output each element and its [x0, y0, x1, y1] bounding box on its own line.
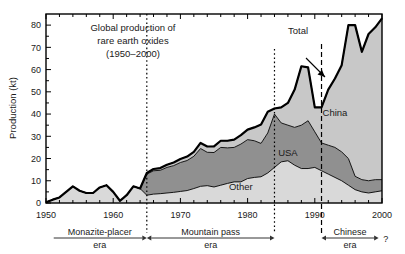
- chart-figure: 01020304050607080 1950196019701980199020…: [0, 0, 405, 254]
- usa-label: USA: [278, 147, 298, 158]
- y-tick-label-0: 0: [36, 198, 41, 208]
- x-tick-label-1960: 1960: [103, 210, 123, 220]
- chart-title: Global production of rare earth oxides (…: [90, 22, 175, 59]
- y-tick-label-70: 70: [31, 43, 41, 53]
- y-axis-label: Production (kt): [7, 77, 18, 139]
- y-axis-ticks: 01020304050607080: [31, 20, 51, 208]
- other-label: Other: [229, 181, 253, 192]
- mountain-pass-era-arrow-left: [147, 235, 152, 240]
- chinese-era-arrow-right: [374, 235, 379, 240]
- rare-earth-production-chart: 01020304050607080 1950196019701980199020…: [0, 0, 405, 254]
- chinese-era-label-bottom: era: [344, 240, 357, 250]
- chart-title-line-1: Global production of: [90, 22, 175, 33]
- y-tick-label-50: 50: [31, 87, 41, 97]
- mountain-pass-era-label-top: Mountain pass: [181, 227, 240, 237]
- china-label: China: [323, 107, 349, 118]
- x-tick-label-1980: 1980: [238, 210, 258, 220]
- chinese-era-suffix: ?: [383, 234, 388, 244]
- chinese-era-label-top: Chinese: [334, 227, 367, 237]
- monazite-placer-era-arrow-right: [142, 235, 147, 240]
- y-tick-label-80: 80: [31, 20, 41, 30]
- chart-title-line-3: (1950–2000): [106, 48, 160, 59]
- x-tick-label-1970: 1970: [170, 210, 190, 220]
- y-tick-label-10: 10: [31, 176, 41, 186]
- y-tick-label-60: 60: [31, 65, 41, 75]
- y-tick-label-20: 20: [31, 154, 41, 164]
- era-bands: Monazite-placereraMountain passeraChines…: [54, 227, 388, 251]
- x-tick-label-1950: 1950: [36, 210, 56, 220]
- x-tick-label-2000: 2000: [372, 210, 392, 220]
- monazite-placer-era-label-bottom: era: [93, 240, 106, 250]
- y-tick-label-40: 40: [31, 109, 41, 119]
- monazite-placer-era-label-top: Monazite-placer: [68, 227, 132, 237]
- chinese-era-arrow-left: [322, 235, 327, 240]
- mountain-pass-era-arrow-right: [270, 235, 275, 240]
- chart-title-line-2: rare earth oxides: [97, 35, 169, 46]
- x-tick-label-1990: 1990: [305, 210, 325, 220]
- total-label: Total: [288, 25, 308, 36]
- y-tick-label-30: 30: [31, 132, 41, 142]
- mountain-pass-era-label-bottom: era: [204, 240, 217, 250]
